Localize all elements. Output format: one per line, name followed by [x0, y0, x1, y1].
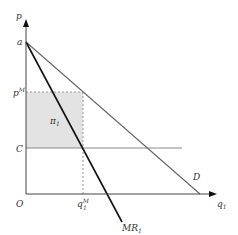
tick-c: C: [16, 144, 23, 154]
y-axis-label: p: [16, 11, 22, 21]
tick-a: a: [17, 37, 22, 47]
monopoly-diagram: p a pM C O qM1 q1 D MR1 π1: [0, 0, 238, 235]
y-axis-arrow-icon: [23, 19, 29, 27]
x-axis-arrow-icon: [209, 191, 217, 197]
origin-label: O: [16, 199, 24, 209]
tick-qm: qM1: [77, 197, 90, 211]
demand-label: D: [192, 172, 200, 182]
x-axis-label: q1: [217, 199, 227, 210]
tick-pm: pM: [13, 86, 26, 98]
mr-label: MR1: [121, 223, 142, 234]
